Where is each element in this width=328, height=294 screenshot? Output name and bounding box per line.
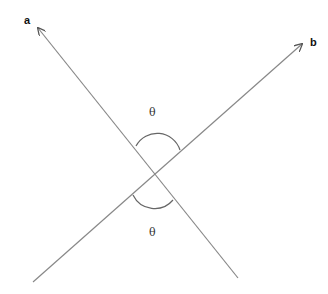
theta-label-bottom: θ [149,226,156,239]
angle-arc-bottom [133,195,173,209]
label-a: a [24,14,30,26]
line-a [38,28,238,278]
label-b: b [310,36,317,48]
angle-arc-top [136,133,180,150]
theta-label-top: θ [149,106,156,119]
line-b [33,44,302,282]
angle-diagram [0,0,328,294]
